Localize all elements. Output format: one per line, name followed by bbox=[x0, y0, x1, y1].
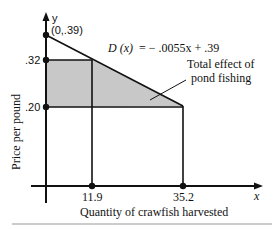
annotation-line2: pond fishing bbox=[191, 71, 251, 85]
equation-lhs: D (x) bbox=[107, 41, 133, 55]
y-axis-label: Price per pound bbox=[9, 94, 23, 170]
annotation-leader-line bbox=[150, 80, 186, 100]
intercept-label: (0,.39) bbox=[51, 24, 83, 36]
demand-chart: y (0,.39) .32 .20 D (x) = − .0055x + .39… bbox=[0, 0, 274, 229]
intercept-dot bbox=[43, 32, 49, 38]
x-axis-symbol: x bbox=[253, 189, 260, 203]
y-tick-020-label: .20 bbox=[25, 101, 40, 113]
x-tick-119-dot bbox=[89, 183, 95, 189]
y-tick-032-label: .32 bbox=[25, 54, 40, 66]
x-tick-119-label: 11.9 bbox=[82, 190, 103, 204]
x-axis-label: Quantity of crawfish harvested bbox=[80, 205, 228, 219]
x-tick-352-dot bbox=[180, 183, 186, 189]
y-axis-symbol: y bbox=[52, 12, 58, 24]
annotation-line1: Total effect of bbox=[187, 57, 255, 71]
equation-rhs: = − .0055x + .39 bbox=[139, 41, 219, 55]
y-axis-arrow-icon bbox=[43, 12, 50, 21]
x-tick-352-label: 35.2 bbox=[173, 190, 194, 204]
shaded-region bbox=[46, 60, 183, 107]
y-tick-032-dot bbox=[43, 57, 49, 63]
y-tick-020-dot bbox=[43, 104, 49, 110]
